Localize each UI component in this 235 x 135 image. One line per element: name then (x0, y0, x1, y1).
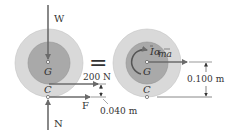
contact-label: C (143, 84, 151, 95)
weight-label: W (54, 13, 65, 24)
equals-sign: = (89, 50, 107, 75)
contact-point (145, 95, 148, 98)
contact-point (46, 95, 49, 98)
ma-label: ma (158, 49, 172, 59)
kinetics-diagram: W G 200 N C F N 0.040 m = I (0, 0, 235, 135)
kinetic-diagram: Iα G ma C 0.100 m (113, 29, 225, 99)
center-of-mass-point (46, 60, 49, 63)
normal-label: N (54, 118, 63, 129)
offset-dimension-label: 0.040 m (100, 106, 138, 116)
center-label: G (44, 66, 52, 77)
friction-label: F (82, 100, 89, 111)
height-dimension-label: 0.100 m (187, 74, 225, 84)
center-label: G (143, 66, 151, 77)
center-of-mass-point (145, 60, 148, 63)
contact-label: C (44, 84, 52, 95)
